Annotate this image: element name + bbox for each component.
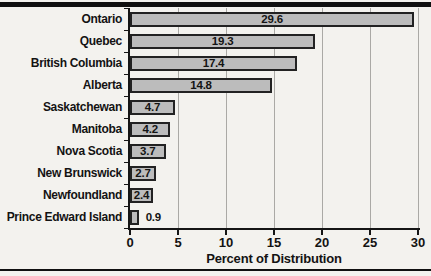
y-tick (124, 162, 128, 164)
y-tick (124, 140, 128, 142)
y-tick (124, 96, 128, 98)
x-tick-label: 30 (411, 235, 425, 250)
bar-value-label: 4.7 (145, 102, 160, 113)
category-label: British Columbia (0, 52, 126, 74)
bar-row: 14.8 (130, 74, 418, 96)
category-axis-labels: OntarioQuebecBritish ColumbiaAlbertaSask… (0, 8, 126, 228)
bar: 3.7 (130, 144, 166, 159)
bar-row: 2.7 (130, 162, 418, 184)
bottom-rule (0, 269, 431, 271)
y-tick (124, 184, 128, 186)
bar: 4.7 (130, 100, 175, 115)
category-label: New Brunswick (0, 162, 126, 184)
bar-value-label: 29.6 (261, 14, 283, 25)
bar-row: 0.9 (130, 206, 418, 228)
x-tick-label: 20 (315, 235, 329, 250)
bar: 29.6 (130, 12, 414, 27)
bar-row: 17.4 (130, 52, 418, 74)
bar-value-label: 4.2 (142, 124, 157, 135)
category-label: Prince Edward Island (0, 206, 126, 228)
bar-row: 3.7 (130, 140, 418, 162)
y-tick (124, 206, 128, 208)
category-label: Alberta (0, 74, 126, 96)
bar-value-label: 2.4 (134, 190, 149, 201)
bar-value-label: 0.9 (146, 212, 161, 223)
bar: 2.7 (130, 166, 156, 181)
scanned-bar-chart-figure: OntarioQuebecBritish ColumbiaAlbertaSask… (0, 0, 431, 276)
bar: 14.8 (130, 78, 272, 93)
category-label: Ontario (0, 8, 126, 30)
plot-area: 29.619.317.414.84.74.23.72.72.40.9 (130, 8, 418, 228)
bar: 2.4 (130, 188, 153, 203)
bar: 19.3 (130, 34, 315, 49)
x-tick-label: 0 (126, 235, 133, 250)
bar: 4.2 (130, 122, 170, 137)
category-label: Manitoba (0, 118, 126, 140)
y-axis-line (128, 8, 130, 230)
bar-row: 19.3 (130, 30, 418, 52)
y-tick (124, 228, 128, 230)
bar-row: 2.4 (130, 184, 418, 206)
x-tick-label: 15 (267, 235, 281, 250)
bar-row: 29.6 (130, 8, 418, 30)
y-tick (124, 30, 128, 32)
bar-value-label: 3.7 (140, 146, 155, 157)
bar (130, 210, 139, 225)
bar-value-label: 2.7 (135, 168, 150, 179)
y-tick (124, 8, 128, 10)
bar-value-label: 19.3 (212, 36, 234, 47)
bar-row: 4.2 (130, 118, 418, 140)
category-label: Nova Scotia (0, 140, 126, 162)
category-label: Quebec (0, 30, 126, 52)
bar-row: 4.7 (130, 96, 418, 118)
category-label: Saskatchewan (0, 96, 126, 118)
bar-rows: 29.619.317.414.84.74.23.72.72.40.9 (130, 8, 418, 228)
x-tick-label: 25 (363, 235, 377, 250)
y-tick (124, 74, 128, 76)
top-rule (0, 2, 431, 7)
category-label: Newfoundland (0, 184, 126, 206)
y-tick (124, 52, 128, 54)
x-tick-label: 5 (174, 235, 181, 250)
bar: 17.4 (130, 56, 297, 71)
x-tick-label: 10 (219, 235, 233, 250)
bar-value-label: 17.4 (203, 58, 225, 69)
x-axis-title: Percent of Distribution (130, 251, 418, 266)
y-tick (124, 118, 128, 120)
bar-value-label: 14.8 (190, 80, 212, 91)
